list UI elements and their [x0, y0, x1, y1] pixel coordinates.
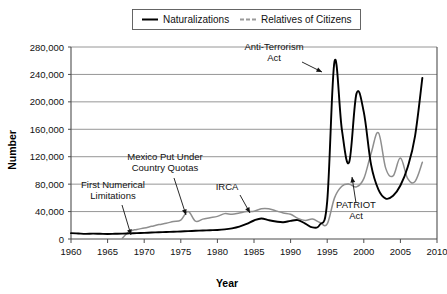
- immigration-line-chart: 040,00080,000120,000160,000200,000240,00…: [0, 0, 447, 294]
- y-tick-label-240000: 240,000: [30, 69, 64, 80]
- x-tick-label-1965: 1965: [97, 246, 118, 257]
- legend-label-naturalizations: Naturalizations: [163, 14, 229, 25]
- chart-legend: Naturalizations Relatives of Citizens: [133, 10, 361, 30]
- x-tick-label-1970: 1970: [134, 246, 155, 257]
- annotation-label-mexico-put-under-country-quotas: Mexico Put UnderCountry Quotas: [127, 151, 203, 173]
- x-tick-label-1975: 1975: [170, 246, 191, 257]
- chart-canvas: 040,00080,000120,000160,000200,000240,00…: [0, 0, 447, 294]
- y-tick-label-120000: 120,000: [30, 151, 64, 162]
- y-tick-label-200000: 200,000: [30, 96, 64, 107]
- annotation-leader-mexico-put-under-country-quotas: [174, 178, 186, 215]
- x-tick-label-2000: 2000: [353, 246, 374, 257]
- y-tick-label-0: 0: [59, 234, 64, 245]
- x-axis-title: Year: [216, 277, 238, 289]
- y-tick-label-80000: 80,000: [35, 179, 64, 190]
- y-tick-label-160000: 160,000: [30, 124, 64, 135]
- y-axis-title: Number: [6, 130, 18, 170]
- annotation-label-irca: IRCA: [216, 181, 239, 192]
- x-tick-label-1990: 1990: [280, 246, 301, 257]
- x-tick-label-2010: 2010: [426, 246, 447, 257]
- y-axis-tick-labels: 040,00080,000120,000160,000200,000240,00…: [30, 42, 64, 245]
- x-tick-label-1980: 1980: [207, 246, 228, 257]
- annotation-arrowhead-patriot-act: [350, 177, 355, 183]
- x-axis-tick-labels: 1960196519701975198019851990199520002005…: [60, 246, 447, 257]
- y-tick-label-40000: 40,000: [35, 206, 64, 217]
- x-tick-label-2005: 2005: [390, 246, 411, 257]
- x-tick-label-1995: 1995: [317, 246, 338, 257]
- x-tick-label-1985: 1985: [243, 246, 264, 257]
- legend-label-relatives-of-citizens: Relatives of Citizens: [261, 14, 352, 25]
- x-tick-label-1960: 1960: [60, 246, 81, 257]
- x-axis-tick-marks: [71, 239, 437, 243]
- annotation-label-first-numerical-limitations: First NumericalLimitations: [81, 179, 145, 201]
- annotation-label-anti-terrorism-act: Anti-TerrorismAct: [244, 41, 303, 63]
- y-tick-label-280000: 280,000: [30, 42, 64, 53]
